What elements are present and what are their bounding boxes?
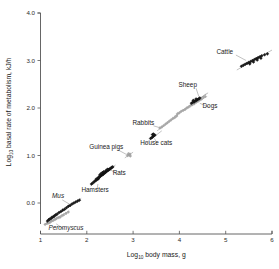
x-axis-title-base: Log xyxy=(127,251,139,259)
metabolism-scatter-figure: 0.01.02.03.04.0123456 PeromyscusMusHamst… xyxy=(0,0,279,269)
scatter-plot-svg: 0.01.02.03.04.0123456 PeromyscusMusHamst… xyxy=(0,0,279,269)
annotation-label-house-cats: House cats xyxy=(140,139,172,146)
annotation-label-guinea-pigs: Guinea pigs xyxy=(89,143,123,151)
x-tick-label: 1 xyxy=(39,236,43,243)
x-tick-label: 2 xyxy=(85,236,89,243)
y-axis-title-base: Log xyxy=(5,155,13,167)
x-axis-title-rest: body mass, g xyxy=(143,251,186,259)
y-tick-label: 2.0 xyxy=(26,104,35,111)
x-tick-label: 5 xyxy=(224,236,228,243)
plot-background xyxy=(0,0,279,269)
x-tick-label: 4 xyxy=(178,236,182,243)
annotation-label-mus: Mus xyxy=(52,192,65,199)
annotation-label-cattle: Cattle xyxy=(216,48,233,55)
y-tick-label: 0.0 xyxy=(26,199,35,206)
x-tick-label: 3 xyxy=(131,236,135,243)
annotation-label-peromyscus: Peromyscus xyxy=(48,224,84,232)
annotation-label-sheep: Sheep xyxy=(178,81,197,89)
y-tick-label: 3.0 xyxy=(26,57,35,64)
annotation-label-hamsters: Hamsters xyxy=(81,186,108,193)
y-tick-label: 4.0 xyxy=(26,9,35,16)
annotation-label-dogs: Dogs xyxy=(202,102,217,110)
y-axis-title-rest: basal rate of metabolism, kJ/h xyxy=(5,57,12,149)
annotation-label-rats: Rats xyxy=(113,169,126,176)
x-tick-label: 6 xyxy=(270,236,274,243)
annotation-label-rabbits: Rabbits xyxy=(132,119,154,126)
y-tick-label: 1.0 xyxy=(26,152,35,159)
